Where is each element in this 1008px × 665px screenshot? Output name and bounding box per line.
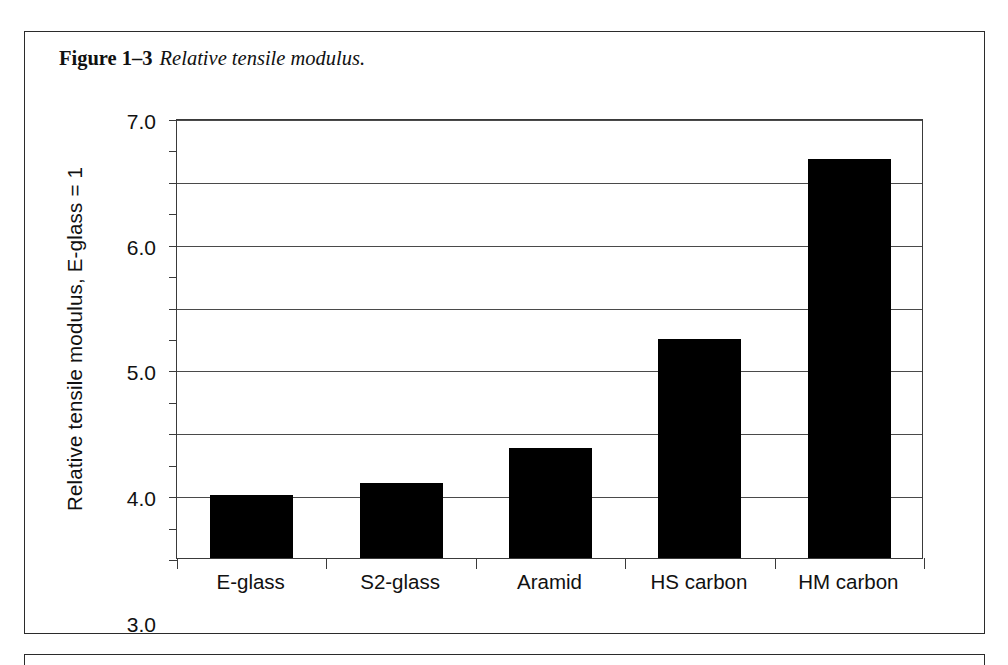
plot-area: 0.01.02.03.04.05.06.07.0 (176, 119, 923, 559)
bar (210, 495, 293, 558)
y-axis-tick-label: 5.0 (127, 362, 156, 383)
bars-group (177, 120, 922, 558)
y-axis-major-tick: 0.0 (169, 560, 177, 561)
y-axis-major-tick: 5.0 (169, 246, 177, 247)
y-axis-minor-tick (169, 214, 177, 215)
x-axis-tick-label: HS carbon (624, 565, 773, 599)
y-axis-minor-tick (169, 529, 177, 530)
bar (658, 339, 741, 558)
y-axis-major-tick: 3.0 (169, 371, 177, 372)
y-axis-minor-tick (169, 466, 177, 467)
bar (509, 448, 592, 558)
bar (808, 159, 891, 558)
y-axis-minor-tick (169, 403, 177, 404)
bar (360, 483, 443, 558)
y-axis-major-tick: 7.0 (169, 120, 177, 121)
next-figure-box (24, 654, 985, 665)
y-axis-title-text: Relative tensile modulus, E-glass = 1 (63, 167, 87, 511)
figure-box: Figure 1–3Relative tensile modulus. Rela… (24, 31, 985, 634)
bar-chart: Relative tensile modulus, E-glass = 1 0.… (25, 32, 984, 633)
y-axis-title: Relative tensile modulus, E-glass = 1 (61, 119, 89, 559)
y-axis-tick-label: 7.0 (127, 111, 156, 132)
x-axis-tick-label: HM carbon (774, 565, 923, 599)
y-axis-minor-tick (169, 277, 177, 278)
y-axis-tick-label: 6.0 (127, 236, 156, 257)
x-axis-tick-label: E-glass (176, 565, 325, 599)
y-axis-minor-tick (169, 151, 177, 152)
y-axis-major-tick: 4.0 (169, 309, 177, 310)
x-axis-separator-tick (924, 558, 925, 569)
y-axis-major-tick: 2.0 (169, 434, 177, 435)
y-axis-major-tick: 6.0 (169, 183, 177, 184)
y-axis-major-tick: 1.0 (169, 497, 177, 498)
y-axis-tick-label: 3.0 (127, 613, 156, 634)
x-axis-tick-labels: E-glassS2-glassAramidHS carbonHM carbon (176, 565, 923, 599)
y-axis-tick-label: 4.0 (127, 488, 156, 509)
y-axis-minor-tick (169, 340, 177, 341)
x-axis-tick-label: S2-glass (325, 565, 474, 599)
x-axis-tick-label: Aramid (475, 565, 624, 599)
